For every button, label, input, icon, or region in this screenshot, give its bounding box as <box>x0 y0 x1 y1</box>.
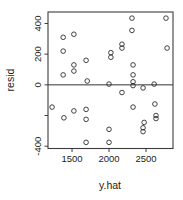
data-point <box>131 73 136 78</box>
x-tick-label: 1500 <box>61 153 82 164</box>
y-tick-label: 400 <box>32 16 43 32</box>
data-point <box>107 140 112 145</box>
data-point <box>84 58 89 63</box>
x-tick-label: 2500 <box>135 153 156 164</box>
plot-marks: 1500200025004002000-400 <box>32 12 173 164</box>
data-point <box>152 82 157 87</box>
x-tick-label: 2000 <box>98 153 119 164</box>
data-point <box>50 105 55 110</box>
data-point <box>61 73 66 78</box>
data-point <box>154 116 159 121</box>
data-point <box>107 127 112 132</box>
data-point <box>131 105 136 110</box>
data-point <box>142 120 147 125</box>
data-point <box>165 46 170 51</box>
data-point <box>85 79 90 84</box>
data-point <box>61 49 66 54</box>
data-point <box>109 55 114 60</box>
data-point <box>61 35 66 40</box>
y-tick-label: 200 <box>32 46 43 62</box>
data-point <box>164 16 169 21</box>
data-point <box>84 107 89 112</box>
data-point <box>84 140 89 145</box>
data-point <box>130 28 135 33</box>
data-point <box>120 90 125 95</box>
data-point <box>72 69 77 74</box>
y-tick-label: 0 <box>32 82 43 87</box>
data-point <box>72 32 77 37</box>
data-point <box>107 82 112 87</box>
data-point <box>62 116 67 121</box>
y-tick-label: -400 <box>32 137 43 156</box>
x-axis-title: y.hat <box>99 179 121 191</box>
data-point <box>131 63 136 68</box>
residual-plot-figure: 1500200025004002000-400 resid y.hat <box>0 0 183 200</box>
data-point <box>141 86 146 91</box>
scatter-plot: 1500200025004002000-400 resid y.hat <box>0 0 183 200</box>
data-point <box>109 50 114 55</box>
data-point <box>153 102 158 107</box>
data-point <box>72 63 77 68</box>
y-axis-title: resid <box>4 68 16 91</box>
data-point <box>84 117 89 122</box>
data-point <box>72 109 77 114</box>
data-point <box>130 16 135 21</box>
